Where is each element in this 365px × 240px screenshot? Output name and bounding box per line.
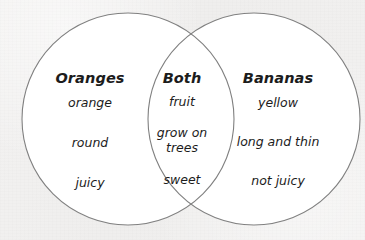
venn-left-set-labels: Oranges orange round juicy — [38, 70, 142, 190]
left-set-item-1: orange — [38, 95, 142, 110]
venn-right-set-labels: Bananas yellow long and thin not juicy — [214, 70, 342, 188]
venn-intersection-labels: Both fruit grow on trees sweet — [150, 70, 214, 187]
right-set-item-2: long and thin — [214, 134, 342, 149]
intersection-heading: Both — [150, 70, 214, 86]
left-set-heading: Oranges — [38, 70, 142, 86]
right-set-heading: Bananas — [214, 70, 342, 86]
venn-diagram-page: Oranges orange round juicy Both fruit gr… — [0, 0, 365, 240]
intersection-item-3: sweet — [150, 172, 214, 187]
right-set-item-3: not juicy — [214, 173, 342, 188]
intersection-item-2: grow on trees — [150, 125, 214, 156]
right-set-item-1: yellow — [214, 95, 342, 110]
venn-text-layer: Oranges orange round juicy Both fruit gr… — [0, 0, 365, 240]
left-set-item-2: round — [38, 135, 142, 150]
left-set-item-3: juicy — [38, 175, 142, 190]
intersection-item-1: fruit — [150, 94, 214, 109]
